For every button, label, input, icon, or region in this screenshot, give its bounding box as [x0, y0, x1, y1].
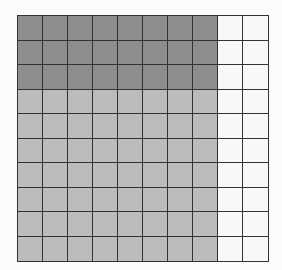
grid-cell-light-shaded [43, 237, 68, 262]
grid-cell-dark-shaded [118, 16, 143, 41]
grid-cell-light-shaded [93, 188, 118, 213]
grid-cell-dark-shaded [93, 16, 118, 41]
grid-cell-light-shaded [93, 237, 118, 262]
grid-cell-unshaded [243, 65, 268, 90]
grid-cell-unshaded [243, 163, 268, 188]
grid-cell-dark-shaded [68, 41, 93, 66]
grid-cell-light-shaded [143, 163, 168, 188]
grid-cell-unshaded [218, 237, 243, 262]
grid-cell-light-shaded [168, 114, 193, 139]
grid-cell-light-shaded [68, 90, 93, 115]
grid-cell-light-shaded [168, 163, 193, 188]
grid-cell-light-shaded [193, 188, 218, 213]
grid-cell-dark-shaded [118, 65, 143, 90]
grid-cell-unshaded [243, 114, 268, 139]
grid-cell-light-shaded [193, 212, 218, 237]
grid-cell-unshaded [218, 90, 243, 115]
grid-cell-light-shaded [43, 163, 68, 188]
grid-cell-light-shaded [68, 114, 93, 139]
grid-cell-dark-shaded [68, 65, 93, 90]
grid-cell-light-shaded [193, 139, 218, 164]
grid-cell-unshaded [243, 16, 268, 41]
grid-cell-unshaded [243, 41, 268, 66]
grid-cell-light-shaded [118, 90, 143, 115]
grid-cell-light-shaded [18, 114, 43, 139]
grid-cell-unshaded [218, 212, 243, 237]
grid-cell-light-shaded [68, 139, 93, 164]
grid-cell-unshaded [218, 188, 243, 213]
grid-cell-light-shaded [143, 139, 168, 164]
grid-cell-light-shaded [18, 139, 43, 164]
grid-cell-dark-shaded [18, 41, 43, 66]
grid-cell-light-shaded [193, 90, 218, 115]
grid-cell-light-shaded [168, 212, 193, 237]
grid-cell-light-shaded [18, 188, 43, 213]
grid-cell-dark-shaded [168, 16, 193, 41]
grid-cell-light-shaded [18, 90, 43, 115]
grid-cell-light-shaded [93, 139, 118, 164]
grid-cell-dark-shaded [43, 65, 68, 90]
grid-cell-unshaded [218, 163, 243, 188]
grid-cell-light-shaded [118, 212, 143, 237]
grid-cell-dark-shaded [93, 41, 118, 66]
grid-cell-light-shaded [18, 163, 43, 188]
hundred-grid [17, 15, 269, 262]
grid-cell-light-shaded [193, 114, 218, 139]
grid-cell-unshaded [243, 139, 268, 164]
grid-cell-dark-shaded [143, 16, 168, 41]
grid-cell-light-shaded [68, 237, 93, 262]
grid-cell-light-shaded [93, 90, 118, 115]
grid-cell-light-shaded [118, 114, 143, 139]
grid-cell-unshaded [218, 114, 243, 139]
grid-cell-dark-shaded [18, 16, 43, 41]
grid-cell-light-shaded [43, 188, 68, 213]
grid-cell-light-shaded [68, 212, 93, 237]
grid-cell-light-shaded [143, 114, 168, 139]
grid-cell-dark-shaded [43, 16, 68, 41]
grid-cell-light-shaded [93, 114, 118, 139]
grid-cell-light-shaded [193, 163, 218, 188]
grid-cell-light-shaded [93, 212, 118, 237]
grid-cell-unshaded [218, 65, 243, 90]
grid-cell-light-shaded [68, 163, 93, 188]
grid-cell-dark-shaded [143, 41, 168, 66]
grid-cell-light-shaded [118, 139, 143, 164]
grid-cell-light-shaded [93, 163, 118, 188]
grid-cell-light-shaded [193, 237, 218, 262]
grid-cell-light-shaded [43, 212, 68, 237]
grid-cell-dark-shaded [93, 65, 118, 90]
grid-cell-dark-shaded [193, 16, 218, 41]
grid-cell-dark-shaded [118, 41, 143, 66]
grid-cell-light-shaded [118, 188, 143, 213]
grid-cell-light-shaded [43, 114, 68, 139]
grid-cell-light-shaded [43, 139, 68, 164]
grid-cell-dark-shaded [193, 41, 218, 66]
grid-cell-light-shaded [68, 188, 93, 213]
grid-cell-light-shaded [168, 237, 193, 262]
grid-cell-dark-shaded [18, 65, 43, 90]
grid-cell-dark-shaded [68, 16, 93, 41]
grid-cell-light-shaded [118, 163, 143, 188]
grid-cell-unshaded [243, 90, 268, 115]
grid-cell-dark-shaded [43, 41, 68, 66]
grid-cell-unshaded [243, 237, 268, 262]
grid-cell-light-shaded [143, 237, 168, 262]
grid-cell-light-shaded [143, 212, 168, 237]
grid-cell-dark-shaded [193, 65, 218, 90]
grid-cell-dark-shaded [168, 41, 193, 66]
grid-cell-light-shaded [168, 188, 193, 213]
grid-cell-unshaded [218, 41, 243, 66]
grid-cell-light-shaded [168, 90, 193, 115]
grid-cell-dark-shaded [143, 65, 168, 90]
grid-cell-unshaded [243, 212, 268, 237]
grid-cell-unshaded [218, 16, 243, 41]
grid-cell-light-shaded [43, 90, 68, 115]
grid-cell-light-shaded [18, 237, 43, 262]
grid-cell-unshaded [243, 188, 268, 213]
grid-cell-light-shaded [143, 90, 168, 115]
grid-cell-light-shaded [143, 188, 168, 213]
grid-cell-unshaded [218, 139, 243, 164]
grid-cell-light-shaded [168, 139, 193, 164]
grid-cell-light-shaded [18, 212, 43, 237]
grid-cell-light-shaded [118, 237, 143, 262]
